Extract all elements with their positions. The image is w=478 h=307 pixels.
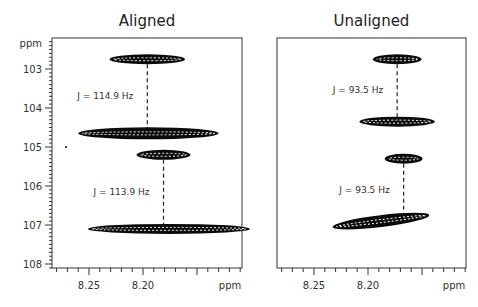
coupling-label: J = 114.9 Hz <box>76 91 133 101</box>
peak-contour <box>385 154 423 164</box>
peak-contour <box>332 209 430 233</box>
y-tick-label: 103 <box>23 64 42 75</box>
panel-aligned: Aligned8.258.20ppm103104105106107108ppmJ… <box>20 12 250 291</box>
plot-frame <box>277 38 466 268</box>
x-tick-label: 8.20 <box>132 280 154 291</box>
y-axis-unit: ppm <box>20 38 42 49</box>
x-tick-label: 8.20 <box>357 280 379 291</box>
peak-contour <box>359 117 435 127</box>
peak-contour <box>110 54 186 64</box>
peak-contour <box>88 224 250 234</box>
y-tick-label: 105 <box>23 142 42 153</box>
coupling-label: J = 93.5 Hz <box>332 85 384 95</box>
x-axis-unit: ppm <box>219 280 241 291</box>
coupling-label: J = 93.5 Hz <box>338 185 390 195</box>
x-tick-label: 8.25 <box>303 280 325 291</box>
panel-title: Unaligned <box>334 12 410 30</box>
panel-title: Aligned <box>119 12 175 30</box>
noise-dot <box>65 146 67 148</box>
peak-contour <box>78 127 218 139</box>
peak-contour <box>373 54 422 64</box>
peak-contour <box>137 150 191 160</box>
y-tick-label: 104 <box>23 103 42 114</box>
y-tick-label: 106 <box>23 181 42 192</box>
coupling-label: J = 113.9 Hz <box>92 187 149 197</box>
y-tick-label: 108 <box>23 259 42 270</box>
panel-unaligned: Unaligned8.258.20ppmJ = 93.5 HzJ = 93.5 … <box>277 12 466 291</box>
x-axis-unit: ppm <box>443 280 465 291</box>
y-tick-label: 107 <box>23 220 42 231</box>
nmr-figure: Aligned8.258.20ppm103104105106107108ppmJ… <box>0 0 478 307</box>
x-tick-label: 8.25 <box>78 280 100 291</box>
